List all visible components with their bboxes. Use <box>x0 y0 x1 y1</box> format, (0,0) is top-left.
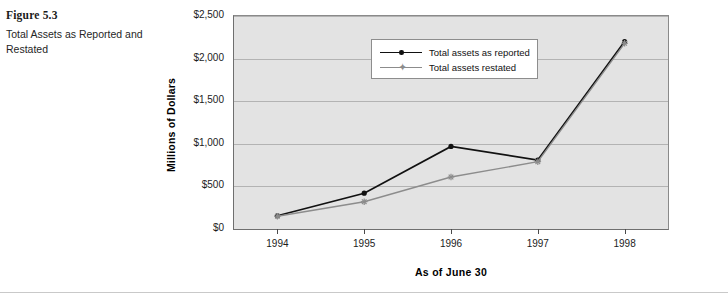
legend-item-restated: ✦ Total assets restated <box>380 60 529 75</box>
data-point-marker <box>362 191 367 196</box>
legend-swatch-restated: ✦ <box>380 62 422 73</box>
y-tick-label: $1,500 <box>162 94 224 105</box>
figure-caption-block: Figure 5.3 Total Assets as Reported and … <box>6 8 158 56</box>
x-tick-label: 1995 <box>334 238 394 249</box>
y-axis-title-label: Millions of Dollars <box>165 78 177 172</box>
legend-swatch-reported <box>380 47 422 58</box>
chart-legend: Total assets as reported ✦ Total assets … <box>371 39 538 79</box>
data-point-marker <box>361 198 368 205</box>
x-axis-title: As of June 30 <box>233 266 669 278</box>
y-axis-title: Millions of Dollars <box>163 60 179 190</box>
x-tick-label: 1997 <box>508 238 568 249</box>
x-tick-mark <box>277 229 278 234</box>
y-tick-label: $500 <box>162 179 224 190</box>
y-tick-label: $2,500 <box>162 9 224 20</box>
figure-number-label: Figure 5.3 <box>6 8 158 22</box>
x-tick-mark <box>451 229 452 234</box>
x-tick-mark <box>538 229 539 234</box>
page-divider <box>0 292 728 293</box>
plot-area: Total assets as reported ✦ Total assets … <box>233 15 669 230</box>
y-tick-label: $0 <box>162 222 224 233</box>
x-tick-label: 1998 <box>595 238 655 249</box>
circle-marker-icon <box>399 50 404 55</box>
x-tick-label: 1996 <box>421 238 481 249</box>
y-tick-label: $1,000 <box>162 137 224 148</box>
x-tick-mark <box>364 229 365 234</box>
data-point-marker <box>448 144 453 149</box>
legend-label-reported: Total assets as reported <box>429 47 530 58</box>
legend-item-reported: Total assets as reported <box>380 45 529 60</box>
x-tick-label: 1994 <box>247 238 307 249</box>
figure-container: Figure 5.3 Total Assets as Reported and … <box>0 0 728 302</box>
star-marker-icon: ✦ <box>398 63 407 72</box>
data-point-marker <box>274 213 281 220</box>
x-tick-mark <box>625 229 626 234</box>
data-point-marker <box>448 174 455 181</box>
figure-caption-text: Total Assets as Reported and Restated <box>6 27 158 56</box>
legend-label-restated: Total assets restated <box>429 62 516 73</box>
y-tick-label: $2,000 <box>162 52 224 63</box>
